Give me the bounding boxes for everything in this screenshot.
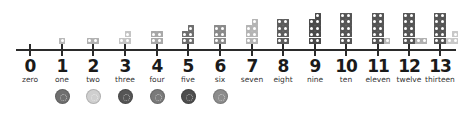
counter-5 <box>181 89 196 104</box>
block-cell <box>188 38 194 44</box>
block-cell <box>87 38 93 44</box>
number-label-9: 9 <box>300 58 330 75</box>
extra-block-cell <box>384 38 390 44</box>
block-cell <box>403 38 409 44</box>
block-cell <box>409 19 415 25</box>
block-cell <box>346 31 352 37</box>
tick-mark-7 <box>251 44 253 56</box>
block-cell <box>309 31 315 37</box>
block-cell <box>220 31 226 37</box>
block-cell <box>59 38 65 44</box>
block-cell <box>409 13 415 19</box>
block-cell <box>434 13 440 19</box>
block-cell <box>182 31 188 37</box>
extra-block-cell <box>446 38 452 44</box>
block-cell <box>378 19 384 25</box>
block-cell <box>346 38 352 44</box>
block-cell <box>283 38 289 44</box>
block-cell <box>252 31 258 37</box>
block-cell <box>409 38 415 44</box>
block-cell <box>372 38 378 44</box>
block-cell <box>277 31 283 37</box>
block-cell <box>434 31 440 37</box>
block-cell <box>403 19 409 25</box>
block-cell <box>346 13 352 19</box>
block-cell <box>214 31 220 37</box>
tick-mark-4 <box>156 44 158 56</box>
block-cell <box>440 31 446 37</box>
extra-block-cell <box>415 38 421 44</box>
extra-block-cell <box>452 38 458 44</box>
block-cell <box>340 19 346 25</box>
block-cell <box>252 38 258 44</box>
tick-mark-12 <box>408 44 410 56</box>
tick-mark-13 <box>439 44 441 56</box>
block-cell <box>157 31 163 37</box>
number-label-2: 2 <box>78 58 108 75</box>
block-cell <box>151 38 157 44</box>
block-cell <box>372 19 378 25</box>
tick-mark-2 <box>92 44 94 56</box>
block-cell <box>315 38 321 44</box>
number-line-axis <box>16 49 456 51</box>
counter-4 <box>150 89 165 104</box>
counter-6 <box>213 89 228 104</box>
block-cell <box>277 25 283 31</box>
block-cell <box>372 31 378 37</box>
block-cell <box>188 31 194 37</box>
block-cell <box>246 25 252 31</box>
block-cell <box>93 38 99 44</box>
block-cell <box>283 25 289 31</box>
block-cell <box>315 25 321 31</box>
block-cell <box>346 25 352 31</box>
block-cell <box>277 19 283 25</box>
block-cell <box>119 38 125 44</box>
block-cell <box>246 38 252 44</box>
block-cell <box>440 13 446 19</box>
block-cell <box>252 25 258 31</box>
block-cell <box>403 13 409 19</box>
block-cell <box>440 38 446 44</box>
block-cell <box>372 25 378 31</box>
block-cell <box>246 31 252 37</box>
block-cell <box>315 19 321 25</box>
number-label-4: 4 <box>142 58 172 75</box>
tick-mark-10 <box>345 44 347 56</box>
block-cell <box>315 31 321 37</box>
block-cell <box>125 31 131 37</box>
block-cell <box>125 38 131 44</box>
number-label-7: 7 <box>237 58 267 75</box>
block-cell <box>409 25 415 31</box>
number-label-3: 3 <box>110 58 140 75</box>
number-label-13: 13 <box>425 58 455 75</box>
block-cell <box>340 31 346 37</box>
number-label-11: 11 <box>363 58 393 75</box>
block-cell <box>409 31 415 37</box>
block-cell <box>309 19 315 25</box>
block-cell <box>403 25 409 31</box>
block-cell <box>378 25 384 31</box>
block-cell <box>440 19 446 25</box>
block-cell <box>309 25 315 31</box>
number-label-12: 12 <box>394 58 424 75</box>
block-cell <box>315 13 321 19</box>
block-cell <box>283 31 289 37</box>
tick-mark-3 <box>124 44 126 56</box>
block-cell <box>340 13 346 19</box>
block-cell <box>220 25 226 31</box>
number-label-8: 8 <box>268 58 298 75</box>
block-cell <box>283 19 289 25</box>
extra-block-cell <box>421 38 427 44</box>
block-cell <box>214 38 220 44</box>
block-cell <box>378 13 384 19</box>
counter-3 <box>118 89 133 104</box>
block-cell <box>214 25 220 31</box>
block-cell <box>434 25 440 31</box>
tick-mark-5 <box>187 44 189 56</box>
block-cell <box>151 31 157 37</box>
number-label-1: 1 <box>47 58 77 75</box>
block-cell <box>188 25 194 31</box>
block-cell <box>440 25 446 31</box>
block-cell <box>182 38 188 44</box>
block-cell <box>346 19 352 25</box>
